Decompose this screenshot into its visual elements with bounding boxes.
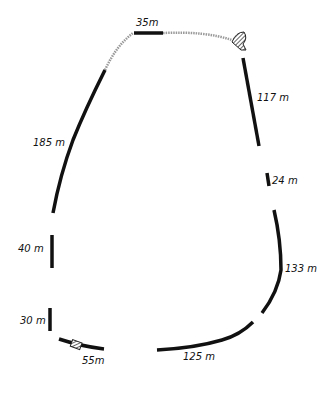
- segment-125m: [157, 322, 253, 350]
- label-133m: 133 m: [285, 263, 317, 274]
- segment-133m: [262, 210, 281, 313]
- dotted-top-left: [105, 33, 133, 70]
- hatched-feature-bottom: [70, 340, 82, 350]
- label-35m: 35m: [136, 17, 159, 28]
- label-117m: 117 m: [257, 92, 289, 103]
- solid-sections: [50, 33, 281, 350]
- label-125m: 125 m: [183, 351, 215, 362]
- label-185m: 185 m: [33, 137, 65, 148]
- hatched-feature-top: [232, 32, 246, 50]
- dotted-sections: [105, 33, 232, 70]
- label-40m: 40 m: [18, 243, 44, 254]
- label-55m: 55m: [82, 355, 105, 366]
- dotted-top-right: [163, 33, 232, 40]
- label-24m: 24 m: [272, 175, 298, 186]
- segment-24m: [267, 173, 269, 186]
- track-diagram: 35m 117 m 24 m 133 m 125 m 55m 30 m 40 m…: [0, 0, 324, 399]
- label-30m: 30 m: [20, 315, 46, 326]
